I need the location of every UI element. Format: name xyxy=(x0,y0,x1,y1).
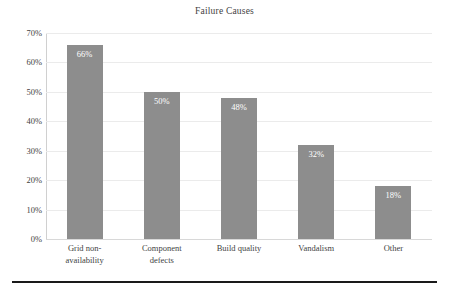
y-tick-label: 60% xyxy=(2,57,42,67)
bar[interactable]: 66% xyxy=(67,45,103,239)
y-tick-label: 20% xyxy=(2,175,42,185)
bar[interactable]: 18% xyxy=(375,186,411,239)
x-category-label: Build quality xyxy=(200,243,277,255)
y-tick-label: 10% xyxy=(2,205,42,215)
x-category-line: Component xyxy=(123,243,200,255)
failure-causes-chart: Failure Causes 70%60%50%40%30%20%10%0% 6… xyxy=(0,0,449,292)
bar-value-label: 50% xyxy=(144,96,180,106)
bar-slot: 66% xyxy=(46,33,123,239)
bar-value-label: 18% xyxy=(375,190,411,200)
x-category-label: Other xyxy=(355,243,432,255)
y-tick-label: 30% xyxy=(2,146,42,156)
gridline-0pct xyxy=(46,239,432,240)
chart-title: Failure Causes xyxy=(0,6,449,16)
bar-slot: 48% xyxy=(200,33,277,239)
x-category-label: Vandalism xyxy=(278,243,355,255)
bar-value-label: 66% xyxy=(67,49,103,59)
y-tick-label: 40% xyxy=(2,116,42,126)
x-category-line: Vandalism xyxy=(278,243,355,255)
plot-area: 66%50%48%32%18% xyxy=(46,33,432,239)
y-axis-tick-labels: 70%60%50%40%30%20%10%0% xyxy=(0,0,42,292)
y-tick-label: 0% xyxy=(2,234,42,244)
x-category-line: availability xyxy=(46,255,123,267)
bar-slot: 18% xyxy=(355,33,432,239)
bar-value-label: 32% xyxy=(298,149,334,159)
bottom-divider xyxy=(12,281,437,283)
x-category-line: Other xyxy=(355,243,432,255)
bar[interactable]: 32% xyxy=(298,145,334,239)
x-category-line: Grid non- xyxy=(46,243,123,255)
x-category-line: defects xyxy=(123,255,200,267)
x-category-label: Componentdefects xyxy=(123,243,200,266)
x-axis-category-labels: Grid non-availabilityComponentdefectsBui… xyxy=(46,243,432,283)
x-category-label: Grid non-availability xyxy=(46,243,123,266)
bar-value-label: 48% xyxy=(221,102,257,112)
bar-slot: 50% xyxy=(123,33,200,239)
y-tick-label: 50% xyxy=(2,87,42,97)
bar-slot: 32% xyxy=(278,33,355,239)
x-category-line: Build quality xyxy=(200,243,277,255)
y-tick-label: 70% xyxy=(2,28,42,38)
bar[interactable]: 50% xyxy=(144,92,180,239)
bar[interactable]: 48% xyxy=(221,98,257,239)
